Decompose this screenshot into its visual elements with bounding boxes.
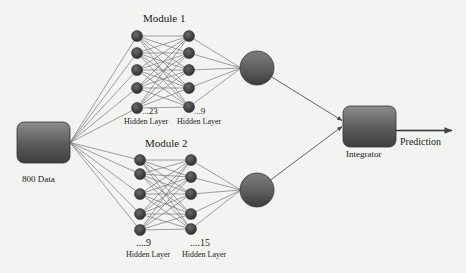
edge-input-to-hidden	[70, 143, 140, 175]
hidden-node	[184, 65, 195, 76]
hidden-node	[132, 65, 143, 76]
edge-module-to-integrator	[271, 127, 342, 180]
edge-input-to-hidden	[70, 143, 140, 161]
hidden-node	[132, 31, 143, 42]
hidden-node	[184, 102, 195, 113]
hidden-node	[135, 169, 146, 180]
hidden-node	[132, 48, 143, 59]
module-output-node	[240, 51, 274, 85]
modular-neural-network-diagram	[0, 0, 466, 273]
hidden-node	[135, 209, 146, 220]
edge-input-to-hidden	[70, 88, 137, 143]
edge-input-to-hidden	[70, 53, 137, 143]
hidden-node	[135, 225, 146, 236]
hidden-node	[184, 83, 195, 94]
hidden-node	[186, 189, 197, 200]
edge-hidden-to-output	[189, 68, 241, 88]
edge-module-to-integrator	[272, 77, 342, 121]
edge-hidden-to-hidden	[140, 177, 191, 194]
hidden-node	[184, 31, 195, 42]
edge-input-to-hidden	[70, 70, 137, 143]
hidden-node	[135, 189, 146, 200]
edge-input-to-hidden	[70, 143, 140, 215]
integrator-box	[343, 106, 396, 147]
edge-hidden-to-output	[189, 68, 241, 107]
edge-hidden-to-output	[189, 68, 241, 70]
edge-hidden-to-output	[191, 177, 241, 190]
hidden-node	[186, 155, 197, 166]
edge-hidden-to-hidden	[137, 107, 189, 108]
edge-hidden-to-hidden	[140, 229, 191, 230]
hidden-node	[132, 103, 143, 114]
edge-input-to-hidden	[70, 108, 137, 143]
edge-hidden-to-output	[191, 190, 241, 229]
edge-hidden-to-hidden	[140, 160, 191, 174]
edge-hidden-to-output	[189, 53, 241, 68]
hidden-node	[132, 83, 143, 94]
hidden-node	[184, 48, 195, 59]
hidden-node	[186, 209, 197, 220]
edge-hidden-to-output	[191, 160, 241, 190]
module-output-node	[240, 173, 274, 207]
edge-hidden-to-output	[189, 36, 241, 68]
hidden-node	[186, 224, 197, 235]
input-data-box	[17, 122, 70, 163]
edge-input-to-hidden	[70, 36, 137, 143]
hidden-node	[135, 155, 146, 166]
hidden-node	[186, 172, 197, 183]
